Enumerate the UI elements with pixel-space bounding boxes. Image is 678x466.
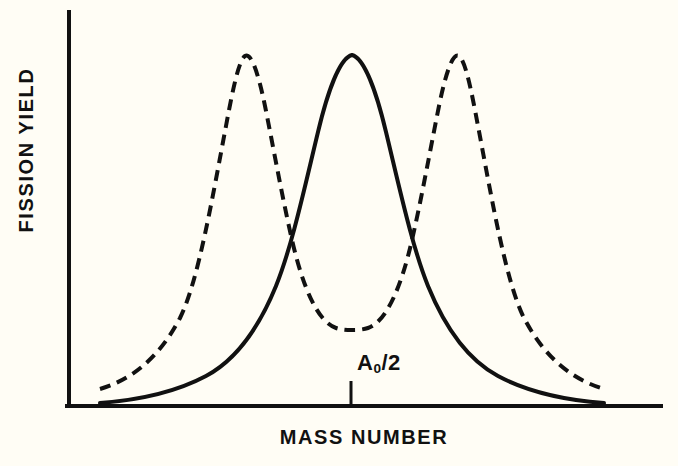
symmetric-fission-curve <box>100 55 604 403</box>
y-axis-title: FISSION YIELD <box>0 0 52 300</box>
y-axis-title-text: FISSION YIELD <box>16 68 36 233</box>
midpoint-label-suffix: /2 <box>381 350 400 375</box>
asymmetric-fission-curve <box>100 55 604 389</box>
chart-plot-area <box>0 0 678 466</box>
x-axis-title: MASS NUMBER <box>68 427 660 447</box>
x-axis-midpoint-label: A0/2 <box>357 352 401 374</box>
fission-yield-figure: FISSION YIELD MASS NUMBER A0/2 <box>0 0 678 466</box>
midpoint-label-symbol: A <box>357 350 373 375</box>
midpoint-label-subscript: 0 <box>373 361 381 376</box>
